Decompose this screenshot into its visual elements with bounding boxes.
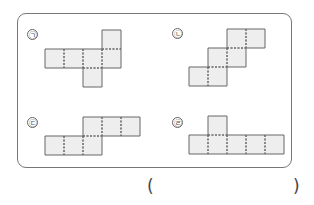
answer-open-paren: ( [147, 176, 154, 196]
net-3 [45, 117, 140, 155]
net-face [64, 49, 83, 68]
net-face [45, 49, 64, 68]
answer-blank[interactable] [160, 178, 290, 196]
net-1 [45, 30, 121, 87]
net-face [208, 135, 227, 154]
net-face [208, 67, 227, 86]
net-face [102, 49, 121, 68]
net-4 [189, 116, 284, 154]
net-face [208, 48, 227, 67]
net-face [208, 116, 227, 135]
net-face [265, 135, 284, 154]
net-face [227, 29, 246, 48]
net-face [64, 136, 83, 155]
net-face [121, 117, 140, 136]
net-face [83, 136, 102, 155]
net-face [227, 48, 246, 67]
net-face [227, 135, 246, 154]
answer-close-paren: ) [293, 176, 300, 196]
net-face [189, 135, 208, 154]
cube-nets [0, 0, 314, 205]
net-face [189, 67, 208, 86]
net-face [246, 29, 265, 48]
net-face [102, 30, 121, 49]
net-face [246, 135, 265, 154]
net-face [83, 117, 102, 136]
net-face [45, 136, 64, 155]
net-face [83, 49, 102, 68]
net-2 [189, 29, 265, 86]
net-face [102, 117, 121, 136]
net-face [83, 68, 102, 87]
